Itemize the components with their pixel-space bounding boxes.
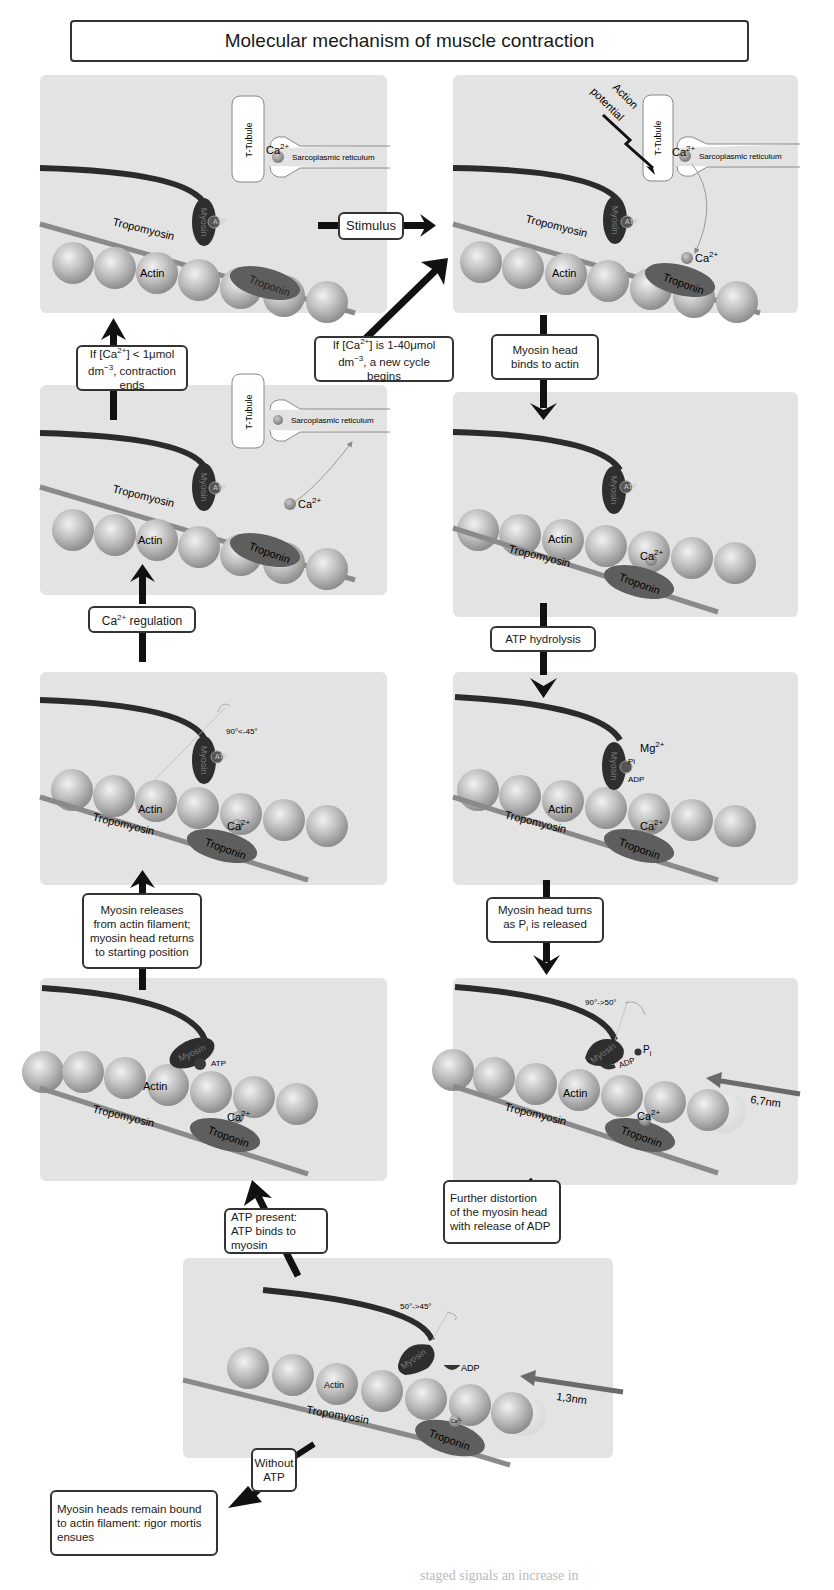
atp-molecule: [194, 1058, 206, 1070]
ca-regulation-arrow: [139, 572, 146, 604]
angle-guide: [615, 1000, 628, 1040]
calcium-flow-arrow: [692, 164, 707, 253]
step-text: ensues: [57, 1530, 94, 1544]
calcium-bound-label: Ca2+: [695, 250, 719, 264]
t-tubule-label: T-Tubule: [244, 394, 254, 429]
pi-label: Pi: [643, 1044, 652, 1057]
sr-label: Sarcoplasmic reticulum: [291, 416, 374, 425]
myosin-tail: [263, 1290, 432, 1340]
myosin-tail: [40, 700, 205, 740]
calcium-ion-free: [284, 498, 296, 510]
tropomyosin-label: Tropomyosin: [525, 212, 589, 239]
step-text: Myosin head turns: [498, 903, 592, 917]
panel-stimulated-drawing: T-Tubule Ca2+ Sarcoplasmic reticulum Act…: [453, 81, 800, 323]
tropomyosin-label: Tropomyosin: [112, 215, 176, 242]
panel-recovery-stroke-drawing: 90°<-45° Actin Myosin ATP Tropomyosin Tr…: [40, 700, 348, 880]
adp-molecule: [446, 1366, 458, 1369]
myosin-label: Myosin: [199, 746, 209, 775]
panel-resting-drawing: T-Tubule Ca2+ Sarcoplasmic reticulum Act…: [40, 96, 390, 323]
page-caption: staged signals an increase in: [420, 1568, 834, 1584]
distance-label: 6,7nm: [750, 1093, 782, 1109]
tropomyosin-label: Tropomyosin: [92, 1102, 156, 1129]
panel-hydrolysis-drawing: Actin Myosin Mg2+ Pi ADP Tropomyosin Tro…: [453, 697, 756, 880]
angle-guide: [432, 1313, 448, 1340]
myosin-label: Myosin: [199, 473, 209, 502]
step-rigor-mortis: Myosin heads remain bound to actin filam…: [50, 1490, 218, 1556]
step-pi-release: Myosin head turns as Pi is released: [486, 897, 604, 943]
sr-label: Sarcoplasmic reticulum: [699, 152, 782, 161]
step-text: dm−3, a new cycle begins: [321, 352, 447, 383]
panel-power-stroke-drawing: 90°->50° Actin Myosin ADP Pi Tropomyosin…: [432, 987, 800, 1173]
step-text: as Pi is released: [503, 917, 587, 936]
atp-label: ATP: [624, 483, 637, 490]
step-text: ATP hydrolysis: [505, 632, 581, 646]
myosin-tail: [40, 168, 205, 205]
step-text: with release of ADP: [450, 1219, 550, 1233]
flow-arrows: [101, 214, 560, 1508]
distance-label: 1,3nm: [556, 1390, 588, 1406]
panel-release-drawing: Actin Myosin ATP Tropomyosin Troponin Ca…: [22, 988, 318, 1174]
calcium-label: Ca2+: [672, 144, 696, 158]
sr-label: Sarcoplasmic reticulum: [292, 153, 375, 162]
myosin-tail: [455, 987, 615, 1040]
sliding-arrow: [530, 1378, 623, 1392]
step-without-atp: Without ATP: [251, 1448, 297, 1492]
actin-label: Actin: [548, 533, 572, 545]
actin-label: Actin: [324, 1380, 344, 1390]
myosin-label: Myosin: [609, 752, 619, 781]
step-myosin-releases: Myosin releases from actin filament; myo…: [82, 893, 202, 969]
step-adp-release: Further distortion of the myosin head wi…: [443, 1180, 561, 1244]
actin-filament: [52, 509, 348, 590]
actin-label: Actin: [140, 267, 164, 279]
calcium-ion-bound: [681, 252, 693, 264]
actin-label: Actin: [552, 267, 576, 279]
tropomyosin-label: Tropomyosin: [306, 1403, 370, 1426]
calcium-ion: [273, 415, 283, 425]
magnesium-label: Mg2+: [640, 740, 665, 754]
step-text: ATP present:: [231, 1210, 297, 1224]
calcium-label: Ca2+: [298, 496, 322, 510]
step-atp-binds: ATP present: ATP binds to myosin: [224, 1208, 328, 1254]
step-text: Stimulus: [346, 219, 396, 233]
step-text: to starting position: [95, 945, 188, 959]
step-ca-regulation: Ca2+ regulation: [88, 606, 196, 633]
step-text: ATP binds to: [231, 1224, 296, 1238]
adp-label: ADP: [628, 775, 644, 784]
step-text: Ca2+ regulation: [102, 611, 183, 628]
actin-filament: [52, 242, 348, 323]
step-text: binds to actin: [511, 357, 579, 371]
step-new-cycle: If [Ca2+] is 1-40μmol dm−3, a new cycle …: [314, 336, 454, 382]
adp-label: ADP: [461, 1363, 480, 1373]
atp-label: ATP: [213, 218, 226, 225]
calcium-label: Ca2+: [227, 1109, 251, 1123]
myosin-label: Myosin: [610, 206, 620, 235]
step-myosin-binds: Myosin head binds to actin: [491, 334, 599, 380]
step-text: Myosin releases: [100, 903, 183, 917]
diagram-graphics: T-Tubule Ca2+ Sarcoplasmic reticulum Act…: [0, 0, 834, 1590]
actin-label: Actin: [143, 1080, 167, 1092]
angle-label: 90°<-45°: [226, 727, 258, 736]
panel-binding-drawing: Actin Myosin ATP Tropomyosin Troponin Ca…: [453, 432, 756, 612]
tropomyosin-label: Tropomyosin: [112, 482, 176, 509]
myosin-label: Myosin: [609, 476, 619, 505]
angle-label: 50°->45°: [400, 1302, 432, 1311]
myosin-tail: [453, 168, 620, 203]
actin-label: Actin: [138, 534, 162, 546]
calcium-label: Ca2+: [266, 142, 290, 156]
step-text: myosin head returns: [90, 931, 194, 945]
step-text: myosin: [231, 1238, 267, 1252]
step-text: of the myosin head: [450, 1205, 547, 1219]
atp-label: ATP: [625, 218, 638, 225]
step-contraction-ends: If [Ca2+] < 1μmol dm−3, contraction ends: [76, 345, 188, 391]
step-text: Myosin head: [512, 343, 577, 357]
caption-text: staged signals an increase in: [420, 1568, 579, 1583]
step-text: to actin filament: rigor mortis: [57, 1516, 201, 1530]
actin-label: Actin: [548, 803, 572, 815]
step-text: ATP: [263, 1470, 285, 1484]
stimulus-arrow: [318, 222, 338, 229]
step-text: Without: [255, 1456, 294, 1470]
t-tubule-label: T-Tubule: [653, 120, 663, 155]
step-text: Further distortion: [450, 1191, 537, 1205]
step-text: from actin filament;: [93, 917, 190, 931]
myosin-tail: [42, 988, 205, 1040]
